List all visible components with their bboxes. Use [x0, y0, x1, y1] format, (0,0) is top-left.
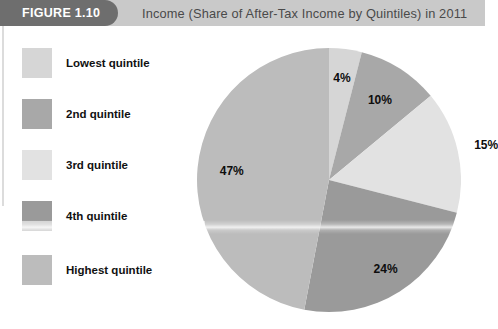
- pie-slice-label-4th-quintile: 24%: [374, 262, 398, 276]
- left-vertical-rule: [2, 26, 4, 206]
- legend-swatch-4th-quintile: [22, 201, 52, 231]
- legend-label-4th-quintile: 4th quintile: [66, 210, 127, 222]
- pie-slice-highest-quintile: [197, 48, 329, 310]
- pie-slice-group: [197, 48, 461, 312]
- pie-slice-label-lowest-quintile: 4%: [333, 71, 350, 85]
- legend-item-highest-quintile: Highest quintile: [22, 253, 152, 287]
- legend-item-4th-quintile: 4th quintile: [22, 199, 127, 233]
- pie-slice-label-3rd-quintile: 15%: [474, 138, 498, 152]
- legend-swatch-highest-quintile: [22, 255, 52, 285]
- legend-item-2nd-quintile: 2nd quintile: [22, 97, 131, 131]
- legend-swatch-2nd-quintile: [22, 99, 52, 129]
- figure-header-banner: FIGURE 1.10 Income (Share of After-Tax I…: [0, 0, 485, 26]
- legend-swatch-lowest-quintile: [22, 48, 52, 78]
- figure-number-tab: FIGURE 1.10: [0, 0, 118, 26]
- legend-label-2nd-quintile: 2nd quintile: [66, 108, 131, 120]
- pie-chart-svg: [197, 48, 461, 312]
- pie-slice-label-2nd-quintile: 10%: [368, 93, 392, 107]
- pie-chart: 4% 10% 15% 24% 47%: [197, 48, 461, 312]
- legend-label-lowest-quintile: Lowest quintile: [66, 57, 150, 69]
- legend-item-3rd-quintile: 3rd quintile: [22, 148, 128, 182]
- legend-swatch-3rd-quintile: [22, 150, 52, 180]
- legend-label-3rd-quintile: 3rd quintile: [66, 159, 128, 171]
- legend-label-highest-quintile: Highest quintile: [66, 264, 152, 276]
- legend-item-lowest-quintile: Lowest quintile: [22, 46, 150, 80]
- figure-title: Income (Share of After-Tax Income by Qui…: [142, 0, 467, 26]
- pie-slice-label-highest-quintile: 47%: [220, 164, 244, 178]
- figure-number-label: FIGURE 1.10: [22, 6, 100, 20]
